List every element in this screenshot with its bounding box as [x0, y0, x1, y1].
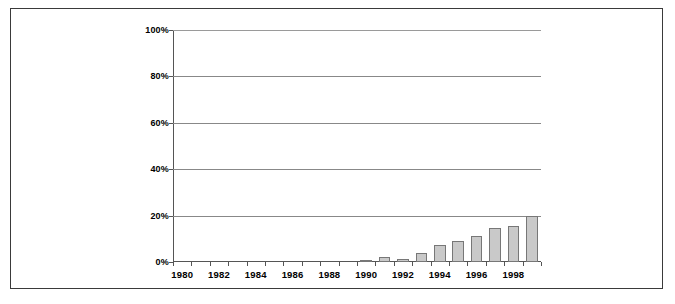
- bar-1994: [434, 245, 445, 262]
- chart-plot-wrapper: 0%20%40%60%80%100% 198019821984198619881…: [11, 9, 664, 290]
- y-tick-label-60%: 60%: [150, 118, 169, 128]
- x-tick-label-1996: 1996: [466, 269, 488, 280]
- x-tick-mark: [541, 262, 542, 266]
- y-tick-mark: [169, 169, 173, 170]
- x-tick-label-1992: 1992: [392, 269, 414, 280]
- x-tick-mark: [228, 262, 229, 266]
- y-tick-mark: [169, 30, 173, 31]
- y-tick-label-100%: 100%: [145, 25, 169, 35]
- x-tick-mark: [247, 262, 248, 266]
- y-tick-mark: [169, 123, 173, 124]
- y-tick-label-40%: 40%: [150, 164, 169, 174]
- x-tick-mark: [504, 262, 505, 266]
- x-tick-label-1982: 1982: [208, 269, 230, 280]
- y-axis-labels: 0%20%40%60%80%100%: [131, 30, 169, 262]
- x-tick-mark: [467, 262, 468, 266]
- x-tick-label-1988: 1988: [318, 269, 340, 280]
- y-tick-label-20%: 20%: [150, 211, 169, 221]
- x-tick-mark: [339, 262, 340, 266]
- gridline-20%: [173, 216, 541, 217]
- x-tick-mark: [191, 262, 192, 266]
- x-axis-ticks: [173, 262, 542, 268]
- plot-area: [173, 30, 541, 262]
- y-tick-mark: [169, 76, 173, 77]
- gridline-60%: [173, 123, 541, 124]
- x-tick-label-1994: 1994: [429, 269, 451, 280]
- bar-1993: [416, 253, 427, 262]
- x-tick-mark: [357, 262, 358, 266]
- x-tick-label-1998: 1998: [502, 269, 524, 280]
- x-tick-mark: [486, 262, 487, 266]
- y-tick-label-0%: 0%: [156, 257, 169, 267]
- x-tick-label-1984: 1984: [245, 269, 267, 280]
- gridline-100%: [173, 30, 541, 31]
- x-tick-mark: [320, 262, 321, 266]
- x-tick-label-1986: 1986: [282, 269, 304, 280]
- x-tick-mark: [449, 262, 450, 266]
- x-axis-labels: 1980198219841986198819901992199419961998: [131, 269, 591, 285]
- x-tick-mark: [265, 262, 266, 266]
- y-tick-label-80%: 80%: [150, 71, 169, 81]
- gridline-80%: [173, 76, 541, 77]
- bar-1995: [452, 241, 463, 262]
- x-tick-mark: [302, 262, 303, 266]
- x-tick-mark: [210, 262, 211, 266]
- chart-frame: 0%20%40%60%80%100% 198019821984198619881…: [10, 8, 663, 289]
- x-tick-mark: [523, 262, 524, 266]
- x-tick-mark: [431, 262, 432, 266]
- x-tick-mark: [412, 262, 413, 266]
- x-tick-label-1990: 1990: [355, 269, 377, 280]
- x-tick-mark: [283, 262, 284, 266]
- x-tick-label-1980: 1980: [171, 269, 193, 280]
- bar-1999: [526, 216, 537, 262]
- bar-1997: [489, 228, 500, 262]
- x-tick-mark: [173, 262, 174, 266]
- bar-1996: [471, 236, 482, 262]
- y-tick-mark: [169, 216, 173, 217]
- bar-1998: [508, 226, 519, 262]
- x-tick-mark: [394, 262, 395, 266]
- gridline-40%: [173, 169, 541, 170]
- y-axis-line: [173, 30, 174, 262]
- x-tick-mark: [375, 262, 376, 266]
